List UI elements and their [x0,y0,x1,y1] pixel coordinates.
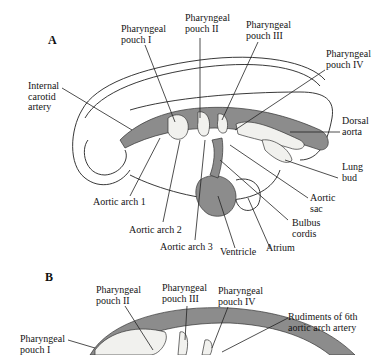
panel-b-pouch-1-2 [95,329,166,355]
label-a-internal-carotid-artery: Internal carotid artery [28,81,59,113]
leader-carotid [62,88,132,130]
label-a-aortic-arch-3: Aortic arch 3 [160,242,213,253]
label-a-lung-bud: Lung bud [342,162,363,183]
head-inner-outline [84,140,126,175]
leader-b-pouch-1 [68,340,95,348]
label-a-pharyngeal-pouch-3: Pharyngeal pouch III [246,20,291,41]
label-a-pharyngeal-pouch-2: Pharyngeal pouch II [185,13,230,34]
label-a-ventricle: Ventricle [220,247,256,258]
leader-atrium [248,198,270,248]
leader-pouch-1 [145,45,175,122]
panel-a-label: A [48,33,57,48]
label-a-bulbus-cordis: Bulbus cordis [292,218,320,239]
label-b-rudiments-6th-arch: Rudiments of 6th aortic arch artery [288,312,357,333]
label-a-aortic-arch-2: Aortic arch 2 [129,225,182,236]
panel-b-label: B [45,270,53,285]
label-b-pharyngeal-pouch-4: Pharyngeal pouch IV [218,286,263,307]
panel-b-pouch-4 [202,340,212,355]
panel-b-pouch-3 [178,332,188,355]
head-outline [73,110,130,185]
leader-arch-1 [130,138,160,196]
pouch-1-shape [168,115,188,139]
embryo-outer-outline [82,57,325,110]
ventricle-shape [196,176,236,217]
aortic-sac-shape [210,138,223,178]
label-a-atrium: Atrium [266,243,295,254]
label-b-pharyngeal-pouch-1: Pharyngeal pouch I [20,334,65,355]
label-b-pharyngeal-pouch-3: Pharyngeal pouch III [162,283,207,304]
leader-lung-bud [285,160,338,178]
label-a-pharyngeal-pouch-1: Pharyngeal pouch I [121,24,166,45]
label-a-aortic-sac: Aortic sac [310,193,336,214]
label-a-aortic-arch-1: Aortic arch 1 [93,197,146,208]
atrium-shape [236,179,260,210]
leader-arch-2 [163,140,180,222]
label-a-dorsal-aorta: Dorsal aorta [342,116,369,137]
label-a-pharyngeal-pouch-4: Pharyngeal pouch IV [326,49,371,70]
label-b-pharyngeal-pouch-2: Pharyngeal pouch II [96,285,141,306]
